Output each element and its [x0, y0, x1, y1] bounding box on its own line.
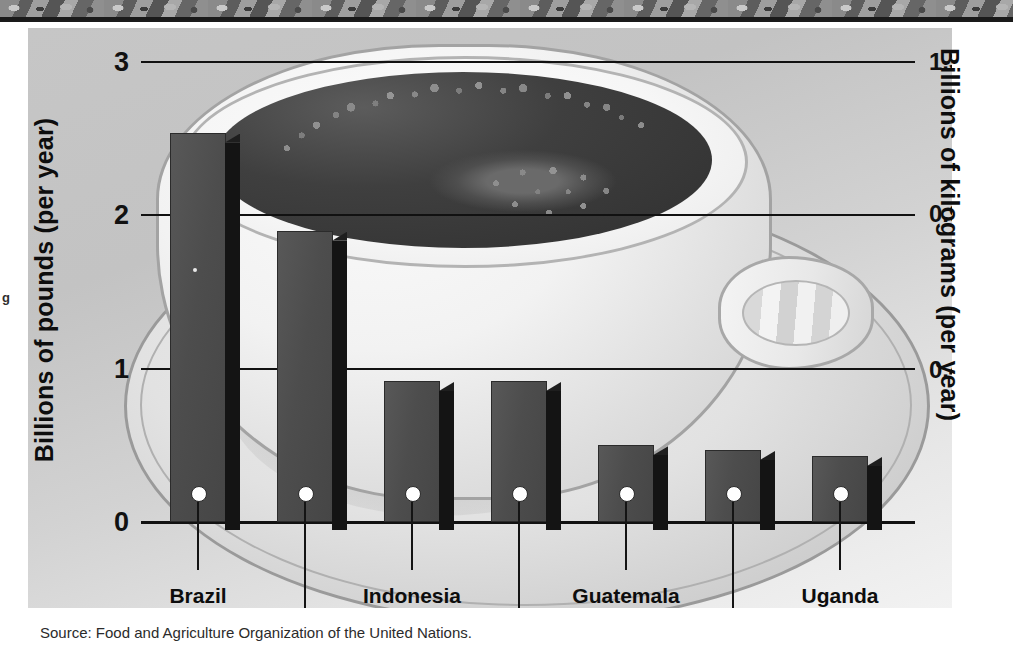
top-divider-rule	[0, 17, 1013, 22]
bar-colombia[interactable]	[277, 231, 333, 522]
leader-pin-colombia	[304, 492, 306, 608]
bar-side-shadow	[546, 391, 561, 530]
bar-side-shadow	[653, 455, 668, 530]
left-ytick-label-3: 3	[114, 47, 129, 78]
bar-side-shadow	[439, 391, 454, 530]
side-margin-glyph: g	[2, 290, 10, 305]
pin-head	[512, 486, 528, 502]
left-ytick-label-2: 2	[114, 200, 129, 231]
plot-area: 01230.450.911.36BrazilColombiaIndonesiaM…	[28, 28, 952, 608]
leader-pin-brazil	[197, 492, 199, 570]
source-note: Source: Food and Agriculture Organizatio…	[40, 624, 472, 641]
category-label-uganda: Uganda	[801, 584, 878, 608]
bar-speck	[193, 268, 197, 272]
chart-page: g 01230.450.911.36BrazilColombiaIndonesi…	[0, 0, 1013, 652]
right-axis-title: Billions of kilograms (per year)	[935, 48, 964, 528]
gridline-2: 2	[141, 214, 915, 216]
decorative-pattern-band	[0, 0, 1013, 17]
category-label-brazil: Brazil	[169, 584, 226, 608]
bar-side-shadow	[225, 143, 240, 530]
leader-pin-ethiopia	[732, 492, 734, 608]
left-ytick-label-0: 0	[114, 507, 129, 538]
leader-pin-guatemala	[625, 492, 627, 570]
category-label-guatemala: Guatemala	[572, 584, 679, 608]
pin-head	[726, 486, 742, 502]
bar-brazil[interactable]	[170, 133, 226, 522]
left-ytick-label-1: 1	[114, 353, 129, 384]
bar-top-bevel	[546, 382, 561, 391]
leader-pin-uganda	[839, 492, 841, 570]
leader-pin-mexico	[518, 492, 520, 608]
gridline-3: 3	[141, 61, 915, 63]
bar-side-shadow	[867, 466, 882, 530]
pin-head	[191, 486, 207, 502]
bar-top-bevel	[653, 446, 668, 455]
bar-top-bevel	[867, 457, 882, 466]
bar-top-bevel	[439, 382, 454, 391]
pin-head	[833, 486, 849, 502]
category-label-indonesia: Indonesia	[363, 584, 461, 608]
chart-panel: 01230.450.911.36BrazilColombiaIndonesiaM…	[28, 28, 952, 608]
pin-head	[405, 486, 421, 502]
bar-top-bevel	[332, 232, 347, 241]
left-axis-title: Billions of pounds (per year)	[30, 90, 59, 490]
leader-pin-indonesia	[411, 492, 413, 570]
pin-head	[298, 486, 314, 502]
pin-head	[619, 486, 635, 502]
bar-side-shadow	[760, 460, 775, 530]
bar-top-bevel	[760, 451, 775, 460]
gridline-1: 1	[141, 368, 915, 370]
bar-top-bevel	[225, 134, 240, 143]
bar-side-shadow	[332, 241, 347, 530]
